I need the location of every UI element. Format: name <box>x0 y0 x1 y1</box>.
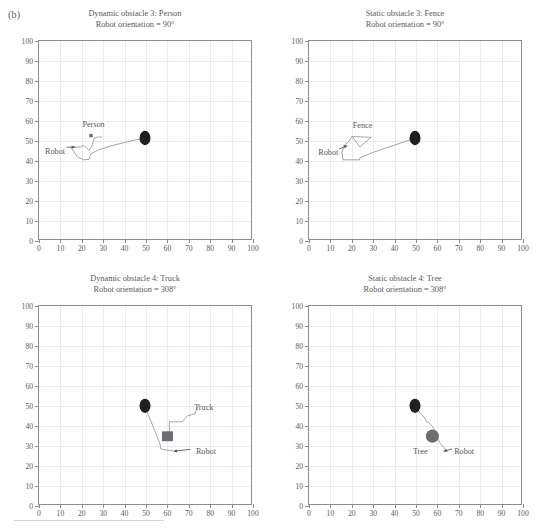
x-axis-tick <box>253 504 254 508</box>
subplot-title-line1: Dynamic obstacle 3: Person <box>89 9 182 18</box>
x-axis-tick-label: 50 <box>142 244 150 253</box>
x-axis-tick <box>309 504 310 508</box>
robot-trajectory-path <box>342 136 415 159</box>
x-axis-tick-label: 0 <box>37 244 41 253</box>
x-axis-tick <box>480 504 481 508</box>
y-axis-tick-label: 20 <box>295 462 303 471</box>
x-axis-tick <box>523 504 524 508</box>
x-axis-tick <box>330 239 331 243</box>
y-axis-tick-label: 70 <box>295 362 303 371</box>
y-axis-tick-label: 0 <box>29 237 33 246</box>
subplot-title-line2: Robot orientation = 308° <box>270 284 540 295</box>
x-axis-tick-label: 40 <box>391 244 399 253</box>
y-axis-tick-label: 80 <box>25 77 33 86</box>
x-axis-tick <box>60 239 61 243</box>
y-axis-tick-label: 30 <box>295 442 303 451</box>
y-axis-tick-label: 40 <box>295 157 303 166</box>
subplot-title-line1: Dynamic obstacle 4: Truck <box>90 274 180 283</box>
goal-marker <box>139 399 150 413</box>
x-axis-tick-label: 70 <box>455 509 463 518</box>
x-axis-tick <box>39 239 40 243</box>
y-axis-tick-label: 60 <box>25 382 33 391</box>
y-axis-tick-label: 10 <box>25 217 33 226</box>
x-axis-tick <box>373 239 374 243</box>
x-axis-tick-label: 80 <box>476 509 484 518</box>
x-axis-tick <box>459 504 460 508</box>
x-axis-tick-label: 10 <box>327 244 335 253</box>
y-axis-tick-label: 90 <box>25 57 33 66</box>
x-axis-tick <box>437 239 438 243</box>
x-axis-tick-label: 50 <box>412 244 420 253</box>
plot-area: 0102030405060708090100010203040506070809… <box>308 305 522 505</box>
x-axis-tick-label: 10 <box>57 509 65 518</box>
subplot-title-line2: Robot orientation = 90° <box>270 19 540 30</box>
x-axis-tick <box>189 504 190 508</box>
x-axis-tick <box>330 504 331 508</box>
subplot-title: Dynamic obstacle 4: TruckRobot orientati… <box>0 273 270 295</box>
x-axis-tick <box>167 239 168 243</box>
y-axis-tick-label: 60 <box>295 117 303 126</box>
y-axis-tick-label: 0 <box>299 502 303 511</box>
x-axis-tick-label: 70 <box>455 244 463 253</box>
x-axis-tick-label: 30 <box>99 509 107 518</box>
x-axis-tick <box>60 504 61 508</box>
y-axis-tick-label: 80 <box>25 342 33 351</box>
x-axis-tick-label: 60 <box>164 509 172 518</box>
tree-marker <box>426 430 439 443</box>
x-axis-tick <box>416 504 417 508</box>
x-axis-tick <box>395 504 396 508</box>
x-axis-tick-label: 50 <box>412 509 420 518</box>
y-axis-tick-label: 30 <box>25 177 33 186</box>
x-axis-tick-label: 40 <box>121 509 129 518</box>
obstacle-trajectory-path <box>169 408 197 437</box>
x-axis-tick <box>232 239 233 243</box>
goal-marker <box>409 131 420 145</box>
x-axis-tick <box>125 239 126 243</box>
x-axis-tick-label: 40 <box>391 509 399 518</box>
y-axis-tick-label: 20 <box>25 197 33 206</box>
plot-area: 0102030405060708090100010203040506070809… <box>38 305 252 505</box>
y-axis-tick-label: 60 <box>295 382 303 391</box>
x-axis-tick <box>210 504 211 508</box>
x-axis-tick-label: 20 <box>348 244 356 253</box>
y-axis-tick-label: 0 <box>299 237 303 246</box>
y-axis-tick-label: 90 <box>295 322 303 331</box>
subplot-title-line2: Robot orientation = 90° <box>0 19 270 30</box>
x-axis-tick-label: 10 <box>327 509 335 518</box>
x-axis-tick-label: 50 <box>142 509 150 518</box>
x-axis-tick <box>309 239 310 243</box>
plot-annotation-fence: Fence <box>353 121 373 130</box>
subplot-title: Static obstacle 4: TreeRobot orientation… <box>270 273 540 295</box>
x-axis-tick-label: 0 <box>37 509 41 518</box>
x-axis-tick-label: 100 <box>517 509 528 518</box>
x-axis-tick <box>103 504 104 508</box>
x-axis-tick-label: 0 <box>307 244 311 253</box>
subplot-title-line2: Robot orientation = 308° <box>0 284 270 295</box>
x-axis-tick <box>103 239 104 243</box>
trajectory-layer <box>309 306 521 504</box>
x-axis-tick <box>437 504 438 508</box>
x-axis-tick <box>502 239 503 243</box>
y-axis-tick-label: 100 <box>292 302 303 311</box>
subplot-dynamic-obstacle-4-truck: Dynamic obstacle 4: TruckRobot orientati… <box>0 265 270 529</box>
y-axis-tick-label: 50 <box>25 137 33 146</box>
plot-area: 0102030405060708090100010203040506070809… <box>38 40 252 240</box>
plot-annotation-robot: Robot <box>45 147 65 156</box>
x-axis-tick-label: 100 <box>247 509 258 518</box>
y-axis-tick-label: 90 <box>25 322 33 331</box>
y-axis-tick-label: 40 <box>25 157 33 166</box>
x-axis-tick <box>373 504 374 508</box>
plot-annotation-truck: Truck <box>194 403 213 412</box>
x-axis-tick-label: 80 <box>206 509 214 518</box>
x-axis-tick <box>146 239 147 243</box>
subplot-title-line1: Static obstacle 3: Fence <box>366 9 445 18</box>
x-axis-tick <box>352 504 353 508</box>
x-axis-tick-label: 70 <box>185 244 193 253</box>
y-axis-tick-label: 80 <box>295 77 303 86</box>
y-axis-tick-label: 10 <box>295 217 303 226</box>
subplot-title: Static obstacle 3: FenceRobot orientatio… <box>270 8 540 30</box>
plot-annotation-robot: Robot <box>454 447 474 456</box>
x-axis-tick-label: 80 <box>476 244 484 253</box>
x-axis-tick-label: 30 <box>99 244 107 253</box>
y-axis-tick-label: 100 <box>22 37 33 46</box>
